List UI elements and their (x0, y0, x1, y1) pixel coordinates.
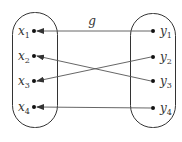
arrow-y4-x4 (37, 107, 151, 108)
dot-y4 (151, 106, 155, 110)
label-y2: y2 (159, 50, 172, 66)
label-y1: y1 (159, 24, 172, 40)
label-x2: x2 (18, 49, 30, 65)
label-y3: y3 (159, 74, 172, 90)
label-x4: x4 (18, 100, 30, 116)
label-x1: x1 (18, 24, 30, 40)
label-y4: y4 (159, 101, 172, 117)
dot-x1 (32, 29, 36, 33)
function-label: g (88, 14, 96, 28)
dot-x3 (32, 79, 36, 83)
label-x3: x3 (18, 74, 30, 90)
dot-y1 (151, 29, 155, 33)
function-diagram: g x1 x2 x3 x4 y1 y2 y3 y4 (0, 0, 182, 142)
dot-x4 (32, 105, 36, 109)
dot-y3 (151, 79, 155, 83)
dot-x2 (32, 54, 36, 58)
dot-y2 (151, 55, 155, 59)
